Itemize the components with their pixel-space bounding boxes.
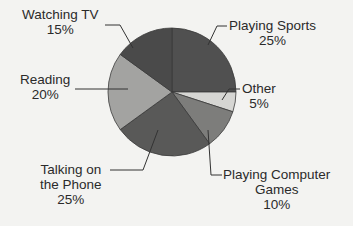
label-other: Other 5%	[242, 81, 276, 111]
label-value: 25%	[229, 33, 316, 48]
label-talking-on-phone: Talking on the Phone 25%	[40, 162, 102, 207]
label-value: 20%	[20, 87, 70, 102]
label-text: Watching TV	[22, 7, 99, 22]
label-value: 25%	[40, 192, 102, 207]
label-text: Playing Sports	[229, 18, 316, 33]
label-text: Other	[242, 81, 276, 96]
label-playing-computer-games: Playing Computer Games 10%	[223, 167, 330, 212]
pie-slice-playing-sports	[172, 28, 236, 92]
label-text: Talking on	[40, 162, 102, 177]
label-value: 15%	[22, 22, 99, 37]
label-playing-sports: Playing Sports 25%	[229, 18, 316, 48]
label-value: 5%	[242, 96, 276, 111]
label-text: Playing Computer	[223, 167, 330, 182]
pie-slices	[108, 28, 236, 156]
label-text: Games	[223, 182, 330, 197]
label-value: 10%	[223, 197, 330, 212]
label-reading: Reading 20%	[20, 72, 70, 102]
label-watching-tv: Watching TV 15%	[22, 7, 99, 37]
label-text: the Phone	[40, 177, 102, 192]
label-text: Reading	[20, 72, 70, 87]
